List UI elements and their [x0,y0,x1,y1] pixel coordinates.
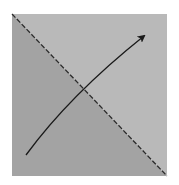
diagram-canvas [0,0,179,185]
